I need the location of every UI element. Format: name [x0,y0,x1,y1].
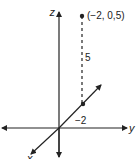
x-axis [31,128,59,154]
base-point [81,102,85,106]
x-offset-label: −2 [75,115,87,126]
coordinate-diagram: z y x (−2, 0,5) 5 −2 [0,0,138,159]
target-point [80,14,84,18]
height-label: 5 [85,52,91,63]
z-axis-label: z [49,6,56,18]
x-axis-label: x [26,152,33,159]
y-axis-label: y [128,122,136,134]
point-label: (−2, 0,5) [87,10,125,21]
